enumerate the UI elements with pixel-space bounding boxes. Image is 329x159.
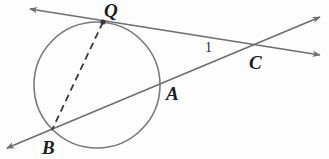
geometry-figure: Q B A C 1 <box>0 0 329 159</box>
secant-line-bac <box>7 17 320 148</box>
tangent-line-qc <box>30 9 320 55</box>
chord-qb-dashed <box>52 22 103 130</box>
angle-label-1: 1 <box>205 41 212 55</box>
point-label-q: Q <box>104 1 118 20</box>
geometry-canvas <box>0 0 329 159</box>
point-label-b: B <box>42 138 55 157</box>
point-label-c: C <box>249 53 262 72</box>
point-label-a: A <box>166 84 179 103</box>
